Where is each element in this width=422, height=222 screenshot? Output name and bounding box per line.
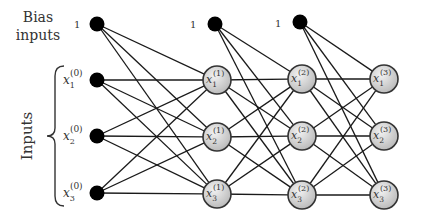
edge	[97, 80, 207, 184]
edge	[97, 136, 204, 188]
edge	[97, 90, 207, 193]
edge	[97, 136, 203, 137]
edge	[300, 22, 378, 182]
neural-network-diagram: 1x1(0)x2(0)x3(0)1x1(1)x2(1)x3(1)1x1(2)x2…	[0, 0, 422, 222]
input-node	[90, 73, 105, 88]
edge	[97, 86, 204, 136]
edge	[300, 22, 372, 71]
edge	[97, 80, 204, 131]
input-node-label: x3(0)	[63, 181, 83, 203]
edge	[97, 24, 207, 127]
bias-value-label: 1	[74, 19, 80, 30]
input-node	[90, 129, 105, 144]
input-node-label: x2(0)	[63, 124, 83, 146]
inputs-brace	[47, 66, 64, 206]
bias-node	[90, 17, 105, 32]
bias-inputs-label-line2: inputs	[16, 27, 60, 43]
bias-value-label: 1	[275, 18, 281, 29]
input-node	[90, 186, 105, 201]
inputs-label: Inputs	[18, 112, 36, 161]
connection-edges	[97, 22, 378, 195]
input-node-label: x1(0)	[63, 68, 83, 90]
edge	[97, 193, 203, 194]
bias-node	[293, 15, 308, 30]
bias-node	[208, 17, 223, 32]
edge	[97, 143, 204, 193]
bias-value-label: 1	[190, 19, 196, 30]
edge	[97, 24, 204, 74]
bias-inputs-label-line1: Bias	[23, 9, 53, 25]
edge	[215, 24, 290, 72]
